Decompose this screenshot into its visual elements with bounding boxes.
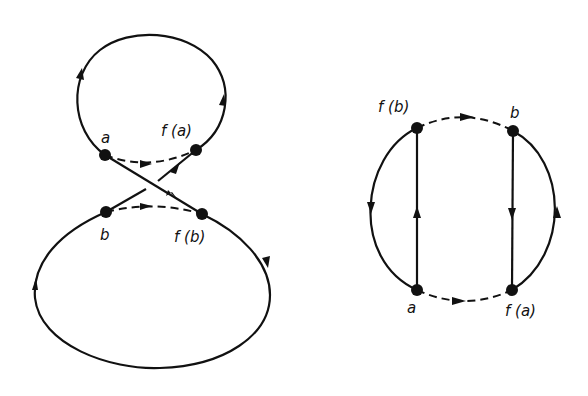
label-a: a <box>407 299 416 317</box>
arrow-dashed-a-fa-icon <box>140 160 152 168</box>
label-a: a <box>101 129 110 147</box>
dashed-b-to-fb <box>106 206 202 214</box>
top-loop <box>77 35 225 155</box>
label-b: b <box>100 226 110 244</box>
arrow-chord-up-icon <box>413 206 421 218</box>
label-fb: f (b) <box>378 98 409 116</box>
arrow-left-arc-icon <box>367 202 375 214</box>
left-arc <box>370 128 417 290</box>
left-diagram: a f (a) b f (b) <box>32 35 270 368</box>
node-fa <box>506 284 518 296</box>
node-b <box>100 206 112 218</box>
dashed-a-to-fa <box>417 290 512 301</box>
node-fb <box>411 122 423 134</box>
node-a <box>99 149 111 161</box>
arrow-dashed-b-fb-icon <box>140 203 152 210</box>
label-fb: f (b) <box>174 228 205 246</box>
node-fb <box>196 208 208 220</box>
right-arc <box>512 131 555 290</box>
node-fa <box>190 144 202 156</box>
arrow-dashed-top-icon <box>460 113 474 121</box>
arrow-dashed-bottom-icon <box>452 297 466 305</box>
label-b: b <box>510 104 520 122</box>
node-a <box>411 284 423 296</box>
label-fa: f (a) <box>505 302 536 320</box>
right-diagram: f (b) b a f (a) <box>367 98 561 320</box>
node-b <box>507 125 519 137</box>
label-fa: f (a) <box>161 122 192 140</box>
figure: a f (a) b f (b) f (b) b a f (a) <box>0 0 588 396</box>
arrow-crossing-b-fa-icon <box>170 162 180 174</box>
bottom-loop <box>35 212 270 368</box>
arrow-chord-down-icon <box>508 208 516 220</box>
